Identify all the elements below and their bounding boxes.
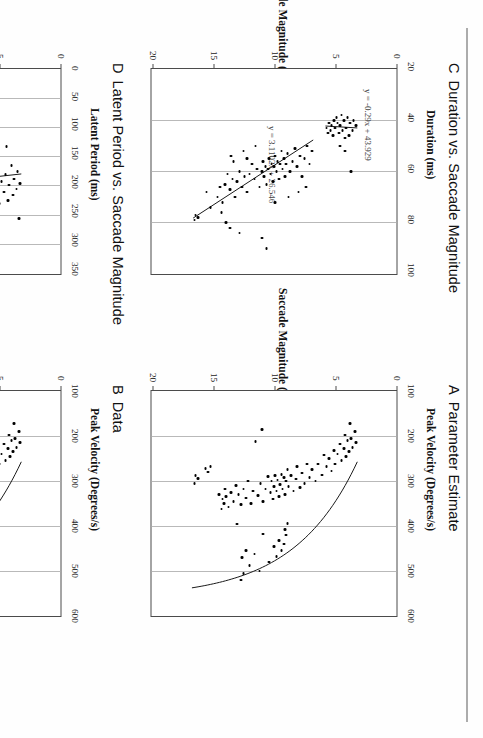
- data-point: [260, 428, 263, 431]
- data-point: [325, 465, 328, 468]
- data-point: [322, 454, 325, 457]
- data-point: [271, 498, 274, 501]
- data-point: [293, 147, 296, 150]
- figure-sheet: AParameter Estimate Peak Velocity (Degre…: [0, 0, 483, 738]
- data-point: [223, 183, 226, 186]
- panel-b-fit-curve: [0, 391, 60, 616]
- data-point: [342, 447, 345, 450]
- data-point: [283, 528, 286, 531]
- data-point: [276, 160, 279, 163]
- panel-a-ytick-1: 200: [405, 429, 415, 443]
- data-point: [254, 440, 257, 443]
- data-point: [353, 430, 356, 433]
- data-point: [287, 485, 290, 488]
- data-point: [228, 227, 231, 230]
- data-point: [332, 449, 335, 452]
- data-point: [275, 490, 278, 493]
- data-point: [10, 164, 13, 167]
- data-point: [327, 457, 330, 460]
- panel-b-letter: B: [109, 385, 125, 395]
- data-point: [348, 122, 351, 125]
- panel-d-title-text: Latent Period vs. Saccade Magnitude: [109, 81, 125, 326]
- panel-a-ytick-4: 500: [405, 564, 415, 578]
- data-point: [308, 476, 311, 479]
- panel-d-xtick-0: 0: [55, 54, 65, 59]
- data-point: [2, 191, 5, 194]
- data-point: [300, 472, 303, 475]
- data-point: [286, 522, 289, 525]
- data-point: [11, 194, 14, 197]
- panel-c-ytick-2: 60: [405, 164, 415, 173]
- data-point: [250, 163, 253, 166]
- data-point: [344, 127, 347, 130]
- panel-c-ylabel: Duration (ms): [424, 110, 436, 179]
- data-point: [305, 463, 308, 466]
- data-point: [11, 450, 14, 453]
- data-point: [254, 145, 257, 148]
- data-point: [240, 186, 243, 189]
- panel-c-ytick-0: 20: [405, 62, 415, 71]
- panel-d-ytick-5: 250: [69, 204, 79, 218]
- data-point: [266, 168, 269, 171]
- data-point: [304, 186, 307, 189]
- data-point: [278, 163, 281, 166]
- panel-c-ytick-4: 100: [405, 263, 415, 277]
- data-point: [308, 163, 311, 166]
- data-point: [15, 446, 18, 449]
- data-point: [209, 465, 212, 468]
- data-point: [286, 468, 289, 471]
- panel-c-xtick-0: 0: [391, 54, 401, 59]
- data-point: [273, 474, 276, 477]
- data-point: [220, 211, 223, 214]
- data-point: [330, 124, 333, 127]
- data-point: [239, 579, 242, 582]
- panel-b-ytick-0: 100: [69, 384, 79, 398]
- data-point: [343, 150, 346, 153]
- data-point: [331, 134, 334, 137]
- data-point: [275, 170, 278, 173]
- panel-d-ytick-0: 0: [69, 66, 79, 71]
- data-point: [6, 199, 9, 202]
- data-point: [338, 124, 341, 127]
- panel-c-ytick-1: 40: [405, 113, 415, 122]
- panel-d-plot-area: y = 2.291x + 171.84: [0, 68, 61, 275]
- data-point: [348, 422, 351, 425]
- data-point: [284, 480, 287, 483]
- data-point: [273, 201, 276, 204]
- data-point: [228, 188, 231, 191]
- data-point: [316, 463, 319, 466]
- data-point: [277, 539, 280, 542]
- data-point: [327, 122, 330, 125]
- data-point: [232, 160, 235, 163]
- data-point: [354, 441, 357, 444]
- data-point: [347, 134, 350, 137]
- panel-b-ytick-3: 400: [69, 519, 79, 533]
- data-point: [284, 534, 287, 537]
- panel-b-ytick-1: 200: [69, 429, 79, 443]
- panel-c-plot-area: y = -0.29x + 43.929 y = 3.1102x + 26.546: [150, 68, 397, 275]
- panel-c-xtick-3: 15: [208, 51, 218, 60]
- panel-b-ylabel: Peak Velocity (Degrees/s): [88, 408, 100, 531]
- data-point: [256, 494, 259, 497]
- data-point: [17, 430, 20, 433]
- data-point: [4, 459, 7, 462]
- data-point: [244, 549, 247, 552]
- data-point: [251, 490, 254, 493]
- data-point: [235, 180, 238, 183]
- data-point: [220, 508, 223, 511]
- data-point: [351, 129, 354, 132]
- data-point: [209, 206, 212, 209]
- panel-c-ytick-3: 80: [405, 215, 415, 224]
- panel-c-xtick-1: 5: [330, 54, 340, 59]
- data-point: [17, 217, 20, 220]
- data-point: [238, 170, 241, 173]
- panel-a-plot-area: [150, 390, 397, 617]
- panel-c-letter: C: [445, 63, 461, 74]
- data-point: [337, 132, 340, 135]
- data-point: [326, 132, 329, 135]
- data-point: [265, 183, 268, 186]
- data-point: [270, 163, 273, 166]
- data-point: [272, 545, 275, 548]
- data-point: [332, 119, 335, 122]
- data-point: [277, 495, 280, 498]
